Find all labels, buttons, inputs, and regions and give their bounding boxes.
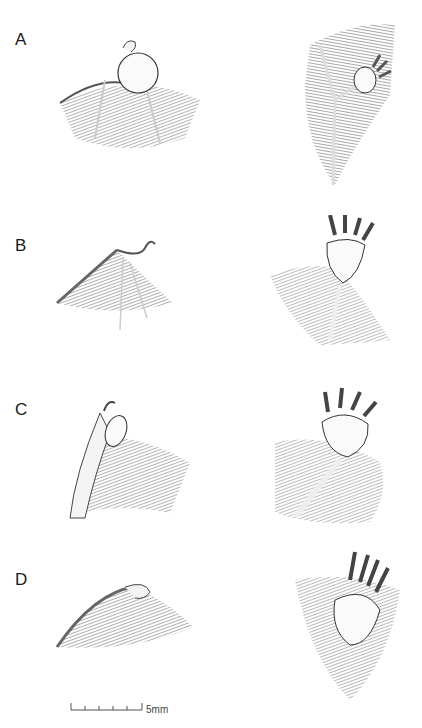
- scale-bar-label: 5mm: [146, 704, 168, 715]
- panel-c-left-illustration: [60, 393, 195, 523]
- panel-d-right-illustration: [290, 540, 415, 705]
- panel-label-c: C: [15, 400, 27, 420]
- panel-label-d: D: [15, 570, 27, 590]
- panel-c-right-illustration: [270, 382, 410, 532]
- panel-label-b: B: [15, 236, 26, 256]
- panel-a-left-illustration: [55, 28, 210, 153]
- panel-d-left-illustration: [55, 572, 195, 667]
- panel-b-right-illustration: [265, 215, 395, 350]
- panel-label-a: A: [15, 30, 26, 50]
- panel-b-left-illustration: [55, 228, 175, 333]
- scale-bar: [70, 702, 144, 712]
- panel-a-right-illustration: [295, 5, 405, 190]
